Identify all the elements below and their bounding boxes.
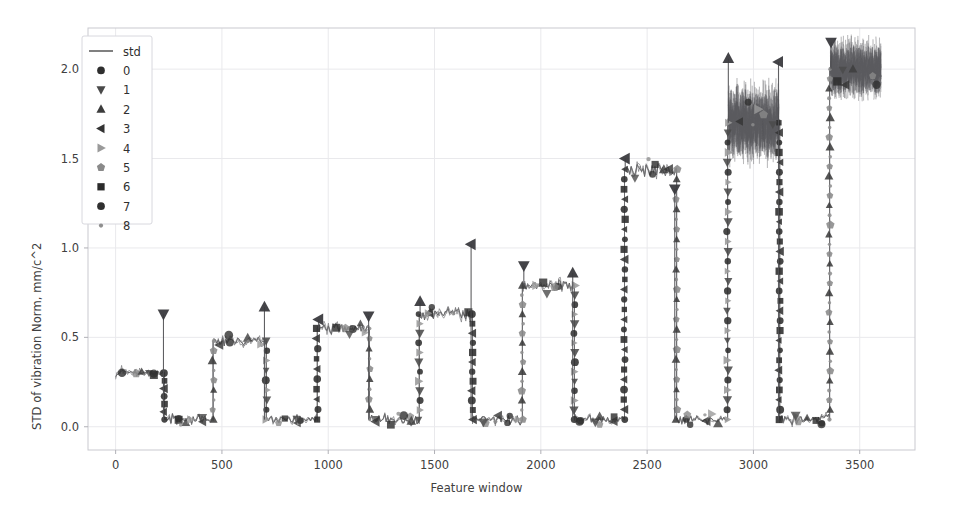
data-marker [366, 365, 373, 372]
data-marker [158, 310, 170, 321]
data-marker [673, 345, 681, 353]
data-marker [776, 179, 782, 185]
data-marker [725, 169, 732, 176]
chart-legend: std012345678 [82, 36, 152, 233]
data-marker [672, 355, 681, 363]
data-marker [673, 316, 680, 322]
data-marker [828, 243, 831, 246]
data-marker [725, 199, 731, 205]
data-marker [314, 417, 320, 423]
data-marker [212, 398, 215, 401]
data-marker [776, 357, 782, 363]
data-marker [621, 176, 628, 183]
data-marker [724, 189, 733, 197]
data-marker [417, 369, 423, 375]
x-tick-label: 1500 [420, 458, 449, 472]
legend-label: 4 [123, 142, 130, 156]
data-marker [414, 359, 423, 367]
data-marker [465, 239, 476, 251]
x-tick-label: 0 [112, 458, 119, 472]
data-marker [675, 398, 679, 402]
plot-frame [88, 28, 915, 450]
data-marker [826, 347, 834, 355]
data-marker [314, 356, 319, 361]
data-marker [620, 316, 627, 324]
data-marker [468, 358, 476, 366]
x-axis-ticks: 0500100015002000250030003500 [112, 450, 874, 472]
data-marker [776, 140, 782, 146]
data-marker [621, 226, 627, 233]
data-marker [777, 377, 783, 383]
data-marker [264, 386, 271, 393]
data-marker [703, 413, 706, 416]
legend-label: std [123, 45, 141, 59]
data-marker [673, 325, 681, 333]
data-marker [622, 216, 629, 223]
data-marker [97, 67, 105, 75]
data-marker [520, 359, 526, 365]
chart-figure: 05001000150020002500300035000.00.51.01.5… [0, 0, 953, 512]
data-marker [673, 386, 680, 392]
data-marker [210, 386, 217, 393]
data-marker [826, 318, 833, 325]
data-marker [776, 387, 783, 394]
data-marker [451, 311, 455, 315]
data-marker [521, 322, 524, 325]
data-marker [745, 99, 752, 106]
data-marker [414, 295, 426, 306]
legend-label: 3 [123, 122, 130, 136]
legend-label: 6 [123, 180, 130, 194]
data-marker [673, 165, 681, 173]
data-marker [366, 335, 372, 341]
data-marker [282, 415, 288, 421]
data-marker [469, 349, 476, 356]
data-marker [827, 96, 831, 100]
data-marker [313, 365, 321, 373]
data-marker [620, 285, 628, 293]
x-tick-label: 500 [211, 458, 233, 472]
data-marker [725, 348, 731, 354]
data-marker [724, 406, 731, 413]
data-marker [775, 187, 783, 196]
data-marker [622, 266, 628, 272]
data-marker [675, 248, 678, 251]
data-marker [723, 228, 730, 235]
data-marker [210, 347, 218, 354]
data-marker [315, 406, 322, 413]
data-marker [724, 218, 733, 227]
data-marker [725, 416, 732, 423]
data-marker [725, 258, 731, 264]
x-tick-label: 3000 [739, 458, 768, 472]
data-marker [468, 329, 476, 338]
legend-label: 2 [123, 103, 130, 117]
data-marker [652, 161, 659, 168]
data-marker [519, 310, 527, 317]
data-marker [829, 184, 833, 188]
x-tick-label: 3500 [845, 458, 874, 472]
data-marker [649, 171, 656, 178]
data-marker [246, 339, 250, 343]
data-marker [520, 293, 524, 297]
y-tick-label: 2.0 [61, 62, 79, 76]
data-marker [313, 396, 319, 403]
data-marker [262, 376, 270, 384]
data-marker [357, 319, 364, 326]
data-marker [212, 339, 216, 343]
vibration-std-chart: 05001000150020002500300035000.00.51.01.5… [0, 0, 953, 512]
data-marker [97, 202, 105, 210]
data-marker [775, 208, 783, 216]
data-marker [777, 238, 783, 244]
data-marker [620, 386, 628, 394]
data-marker [631, 175, 640, 183]
data-marker [621, 396, 627, 402]
data-marker [622, 356, 629, 363]
data-marker [776, 199, 782, 205]
data-marker [777, 258, 784, 265]
data-marker [396, 412, 400, 416]
data-marker [263, 397, 272, 405]
data-marker [723, 159, 732, 167]
data-marker [827, 339, 833, 345]
data-marker [208, 356, 217, 365]
data-marker [520, 408, 523, 411]
data-marker [776, 228, 783, 235]
